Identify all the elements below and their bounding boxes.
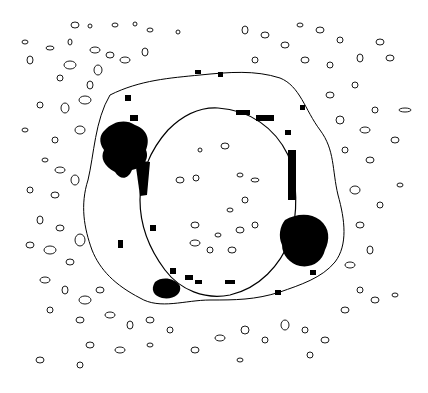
contour-map-figure [0,0,428,393]
contour-map [0,0,428,393]
